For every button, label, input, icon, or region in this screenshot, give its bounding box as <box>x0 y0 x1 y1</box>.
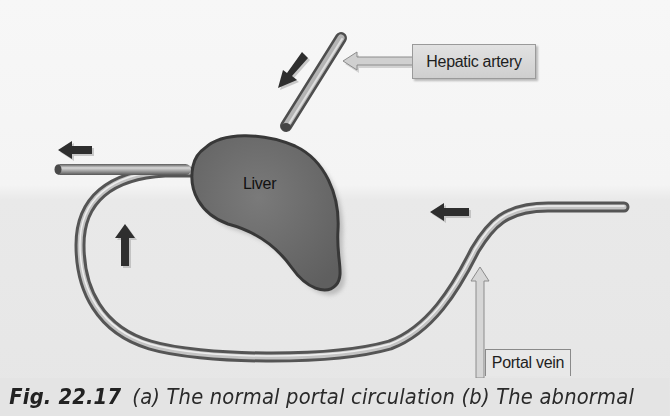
figure-caption: Fig. 22.17 (a) The normal portal circula… <box>0 378 670 416</box>
liver-label: Liver <box>243 175 276 193</box>
figure-number: Fig. 22.17 <box>9 385 121 409</box>
flow-arrow-outflow-left-icon <box>58 141 94 161</box>
portal-vein-vessel <box>80 171 624 357</box>
figure-caption-text: (a) The normal portal circulation (b) Th… <box>132 385 634 409</box>
portal-vein-label: Portal vein <box>485 349 571 376</box>
flow-arrow-portal-inflow-icon <box>430 203 471 223</box>
flow-arrow-loop-up-icon <box>115 224 137 268</box>
hepatic-artery-label-text: Hepatic artery <box>426 53 521 71</box>
hepatic-vein-vessel <box>55 164 192 175</box>
portal-vein-label-text: Portal vein <box>492 354 564 372</box>
liver-organ <box>192 136 345 295</box>
hepatic-artery-callout-arrow-icon <box>343 52 415 73</box>
hepatic-artery-label: Hepatic artery <box>412 44 536 79</box>
